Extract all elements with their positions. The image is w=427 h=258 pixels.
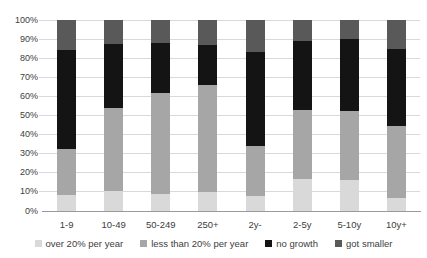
bar-segment-no-growth [151, 43, 170, 93]
bar-segment-got-smaller [387, 20, 406, 49]
y-tick-label: 30% [6, 149, 38, 158]
legend-item: no growth [265, 238, 318, 249]
x-tick-label: 1-9 [43, 219, 90, 230]
legend-label: less than 20% per year [151, 238, 248, 249]
y-gridline [39, 115, 420, 116]
y-gridline [39, 20, 420, 21]
bar-segment-over-20-per-year [387, 198, 406, 211]
bar-segment-over-20-per-year [151, 194, 170, 211]
chart-legend: over 20% per yearless than 20% per yearn… [0, 238, 427, 249]
bar-segment-no-growth [340, 39, 359, 111]
bar-10-49 [104, 20, 123, 211]
bar-segment-less-than-20-per-year [104, 108, 123, 191]
x-tick-label: 5-10y [326, 219, 373, 230]
bar-2-5y [293, 20, 312, 211]
y-gridline [39, 39, 420, 40]
bar-segment-no-growth [293, 41, 312, 110]
bar-2y- [246, 20, 265, 211]
bar-segment-got-smaller [151, 20, 170, 43]
bar-segment-no-growth [387, 49, 406, 126]
legend-label: no growth [276, 238, 318, 249]
legend-label: got smaller [346, 238, 392, 249]
stacked-bar-chart: over 20% per yearless than 20% per yearn… [0, 0, 427, 258]
bar-5-10y [340, 20, 359, 211]
x-tick-label: 10-49 [90, 219, 137, 230]
bar-segment-no-growth [246, 52, 265, 147]
x-tick-label: 2-5y [279, 219, 326, 230]
bar-segment-no-growth [198, 45, 217, 85]
legend-swatch-icon [140, 240, 147, 247]
x-tick-label: 250+ [184, 219, 231, 230]
legend-swatch-icon [265, 240, 272, 247]
bar-segment-less-than-20-per-year [198, 85, 217, 192]
x-tick-label: 50-249 [137, 219, 184, 230]
legend-swatch-icon [335, 240, 342, 247]
bar-segment-got-smaller [293, 20, 312, 41]
bar-segment-less-than-20-per-year [387, 126, 406, 198]
legend-item: less than 20% per year [140, 238, 248, 249]
y-tick-label: 70% [6, 73, 38, 82]
y-gridline [39, 134, 420, 135]
bar-segment-less-than-20-per-year [151, 93, 170, 194]
bar-250+ [198, 20, 217, 211]
legend-swatch-icon [35, 240, 42, 247]
bar-1-9 [57, 20, 76, 211]
bar-10y+ [387, 20, 406, 211]
y-tick-label: 0% [6, 207, 38, 216]
y-gridline [39, 77, 420, 78]
y-gridline [39, 58, 420, 59]
bar-segment-no-growth [57, 50, 76, 149]
bar-segment-over-20-per-year [340, 180, 359, 211]
bar-segment-got-smaller [246, 20, 265, 52]
bar-segment-got-smaller [198, 20, 217, 45]
y-tick-label: 20% [6, 168, 38, 177]
bar-segment-less-than-20-per-year [340, 111, 359, 181]
y-tick-label: 100% [6, 16, 38, 25]
y-tick-label: 90% [6, 35, 38, 44]
legend-item: got smaller [335, 238, 392, 249]
bar-segment-over-20-per-year [246, 196, 265, 211]
bar-segment-less-than-20-per-year [246, 146, 265, 196]
x-tick-label: 2y- [232, 219, 279, 230]
y-tick-label: 60% [6, 92, 38, 101]
x-tick-label: 10y+ [373, 219, 420, 230]
y-tick-label: 40% [6, 130, 38, 139]
y-tick-label: 10% [6, 187, 38, 196]
bar-segment-no-growth [104, 44, 123, 108]
bar-segment-less-than-20-per-year [293, 110, 312, 179]
x-axis-line [42, 211, 421, 212]
y-tick-label: 50% [6, 111, 38, 120]
y-gridline [39, 172, 420, 173]
bar-segment-over-20-per-year [57, 195, 76, 211]
bar-segment-got-smaller [340, 20, 359, 39]
bar-segment-over-20-per-year [198, 192, 217, 211]
legend-label: over 20% per year [46, 238, 124, 249]
bar-segment-less-than-20-per-year [57, 149, 76, 195]
bar-segment-got-smaller [104, 20, 123, 44]
y-gridline [39, 153, 420, 154]
bar-segment-over-20-per-year [293, 179, 312, 211]
y-gridline [39, 191, 420, 192]
bar-segment-got-smaller [57, 20, 76, 50]
legend-item: over 20% per year [35, 238, 124, 249]
bar-segment-over-20-per-year [104, 191, 123, 211]
y-gridline [39, 96, 420, 97]
bar-50-249 [151, 20, 170, 211]
y-tick-label: 80% [6, 54, 38, 63]
